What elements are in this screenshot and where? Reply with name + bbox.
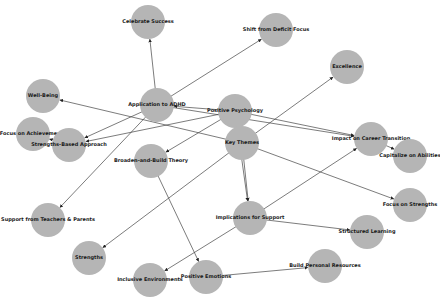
node-label: Strengths-Based Approach [31, 141, 107, 148]
node-label: Well-Being [28, 92, 59, 99]
edge-implications_support-to-impact_career [250, 148, 357, 218]
node-celebrate_success[interactable]: Celebrate Success [122, 5, 174, 39]
node-label: Inclusive Environments [117, 276, 183, 282]
node-label: Key Themes [225, 139, 259, 146]
node-label: Structured Learning [339, 228, 396, 235]
node-focus_strengths[interactable]: Focus on Strengths [383, 188, 438, 222]
node-label: Implications for Support [216, 214, 285, 221]
node-label: Build Personal Resources [289, 262, 360, 268]
node-label: Positive Emotions [181, 273, 231, 279]
node-build_resources[interactable]: Build Personal Resources [289, 249, 360, 283]
node-label: Strengths [75, 254, 103, 261]
node-label: Shift from Deficit Focus [243, 26, 309, 32]
node-positive_emotions[interactable]: Positive Emotions [181, 260, 231, 294]
node-strengths[interactable]: Strengths [72, 241, 106, 275]
node-label: Positive Psychology [207, 107, 264, 114]
node-label: Broaden-and-Build Theory [114, 157, 189, 164]
node-well_being[interactable]: Well-Being [26, 79, 60, 113]
node-label: Capitalize on Abilities [379, 152, 440, 159]
node-inclusive_env[interactable]: Inclusive Environments [117, 263, 183, 297]
node-shift_deficit[interactable]: Shift from Deficit Focus [243, 13, 309, 47]
node-label: Celebrate Success [122, 18, 174, 24]
node-broaden_build[interactable]: Broaden-and-Build Theory [114, 144, 189, 178]
node-label: Focus on Strengths [383, 201, 438, 208]
node-label: Application to ADHD [128, 101, 186, 108]
node-label: Impact on Career Transition [332, 135, 411, 142]
concept-graph: Celebrate SuccessShift from Deficit Focu… [0, 0, 440, 300]
nodes-layer: Celebrate SuccessShift from Deficit Focu… [0, 5, 440, 297]
node-support_teachers[interactable]: Support from Teachers & Parents [1, 203, 95, 237]
node-structured_learning[interactable]: Structured Learning [339, 215, 396, 249]
node-label: Support from Teachers & Parents [1, 216, 95, 223]
edge-application_adhd-to-shift_deficit [157, 39, 262, 105]
node-capitalize_abilities[interactable]: Capitalize on Abilities [379, 139, 440, 173]
node-excellence[interactable]: Excellence [330, 50, 364, 84]
node-implications_support[interactable]: Implications for Support [216, 201, 285, 235]
node-key_themes[interactable]: Key Themes [225, 126, 259, 160]
node-application_adhd[interactable]: Application to ADHD [128, 88, 186, 122]
node-label: Excellence [332, 63, 362, 69]
